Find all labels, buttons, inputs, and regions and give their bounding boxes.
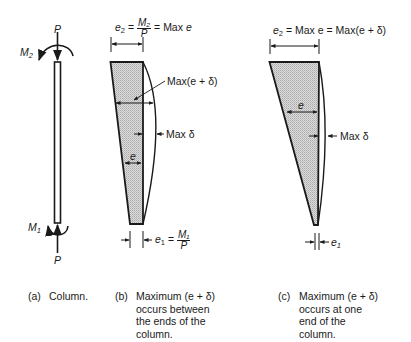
- max-delta-label: Max δ: [166, 128, 195, 140]
- e-label-b: e: [130, 150, 136, 162]
- max-e-delta-label: Max(e + δ): [167, 75, 217, 87]
- e-label-c: e: [298, 99, 304, 111]
- panel-c-max-at-end: [270, 39, 338, 250]
- bottom-moment-label: M1: [28, 221, 41, 237]
- top-moment-arc: [39, 45, 73, 60]
- caption-b: (b) Maximum (e + δ) occurs between the e…: [115, 290, 255, 342]
- e2-formula-c: e2 = Max e = Max(e + δ): [273, 24, 386, 40]
- caption-c: (c) Maximum (e + δ) occurs at one end of…: [278, 290, 408, 342]
- e1-label-c: e1: [331, 236, 341, 252]
- top-load-label: P: [54, 23, 61, 35]
- max-delta-label-c: Max δ: [340, 130, 369, 142]
- top-moment-label: M2: [20, 46, 33, 62]
- deflected-shape: [143, 62, 156, 224]
- panel-a-column: [39, 32, 73, 253]
- e2-formula: e2 = M₂P = Max e: [115, 18, 192, 39]
- bottom-load-label: P: [54, 254, 61, 266]
- column-member: [55, 62, 61, 223]
- e1-formula: e1 = M₁P: [155, 230, 190, 251]
- panel-b-max-between-ends: [111, 37, 166, 248]
